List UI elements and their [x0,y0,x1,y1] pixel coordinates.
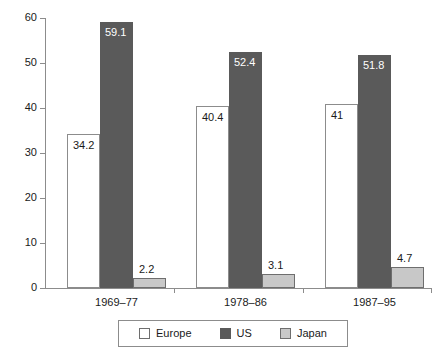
y-tick-label: 10 [25,236,37,249]
x-axis-line [45,288,432,289]
bar-value-label: 3.1 [268,259,283,272]
bar-value-label: 34.2 [73,139,94,152]
bar-value-label: 41 [331,109,343,122]
x-tick-mark [431,288,432,293]
y-tick-label: 0 [31,281,37,294]
bar-japan-1978-86[interactable]: 3.1 [262,274,295,288]
y-tick-mark [40,288,45,289]
y-tick-label: 30 [25,146,37,159]
legend-label: Europe [156,327,191,340]
x-tick-mark [174,288,175,293]
x-axis-group-label-1969-77: 1969–77 [67,296,166,309]
bar-japan-1969-77[interactable]: 2.2 [133,278,166,288]
legend-item-europe[interactable]: Europe [139,327,191,340]
bar-value-label: 51.8 [363,59,384,72]
bar-value-label: 4.7 [397,252,412,265]
legend-item-japan[interactable]: Japan [280,327,327,340]
bar-europe-1969-77[interactable]: 34.2 [67,134,100,288]
y-tick-label: 50 [25,56,37,69]
y-tick-label: 20 [25,191,37,204]
x-axis-group-label-1987-95: 1987–95 [325,296,424,309]
y-tick-mark [40,18,45,19]
bar-value-label: 59.1 [105,26,126,39]
bar-value-label: 52.4 [234,56,255,69]
swatch-japan-icon [280,328,291,339]
legend-label: US [237,327,252,340]
bar-us-1969-77[interactable]: 59.1 [100,22,133,288]
bar-japan-1987-95[interactable]: 4.7 [391,267,424,288]
chart-legend: Europe US Japan [118,320,348,347]
bar-europe-1987-95[interactable]: 41 [325,104,358,289]
y-tick-mark [40,153,45,154]
bar-chart-figure: 0 10 20 30 40 50 60 [0,0,441,359]
x-axis-group-label-1978-86: 1978–86 [196,296,295,309]
legend-item-us[interactable]: US [220,327,252,340]
plot-area: 0 10 20 30 40 50 60 [45,18,432,288]
swatch-europe-icon [139,328,150,339]
y-tick-mark [40,63,45,64]
y-tick-mark [40,108,45,109]
legend-label: Japan [297,327,327,340]
y-tick-label: 60 [25,11,37,24]
bar-value-label: 40.4 [202,111,223,124]
y-tick-label: 40 [25,101,37,114]
x-tick-mark [303,288,304,293]
bar-value-label: 2.2 [139,263,154,276]
y-tick-mark [40,243,45,244]
y-axis-line [45,18,46,288]
bar-us-1987-95[interactable]: 51.8 [358,55,391,288]
y-tick-mark [40,198,45,199]
bar-europe-1978-86[interactable]: 40.4 [196,106,229,288]
swatch-us-icon [220,328,231,339]
bar-us-1978-86[interactable]: 52.4 [229,52,262,288]
